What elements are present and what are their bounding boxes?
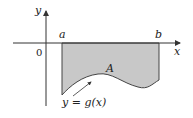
curve-pointer-arrow — [73, 82, 91, 96]
bound-b-label: b — [155, 28, 162, 41]
curve-label: y = g(x) — [61, 96, 106, 109]
bound-a-label: a — [59, 28, 66, 41]
origin-label: 0 — [36, 47, 42, 58]
diagram: y x 0 a b A y = g(x) — [0, 0, 193, 118]
y-axis-label: y — [34, 4, 42, 17]
x-axis-label: x — [174, 45, 181, 58]
region-label: A — [105, 62, 114, 75]
